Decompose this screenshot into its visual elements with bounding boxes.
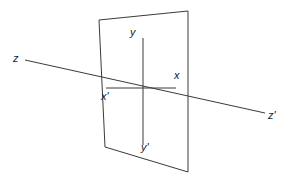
z-axis-line <box>25 60 265 113</box>
label-y: y <box>130 27 136 38</box>
label-z-prime: z' <box>268 110 276 121</box>
label-x-prime: x' <box>101 91 109 102</box>
label-z: z <box>13 53 19 64</box>
coordinate-axes-diagram <box>0 0 293 185</box>
label-y-prime: y' <box>141 142 149 153</box>
diagram-canvas: z y x x' y' z' <box>0 0 293 185</box>
label-x: x <box>174 70 180 81</box>
